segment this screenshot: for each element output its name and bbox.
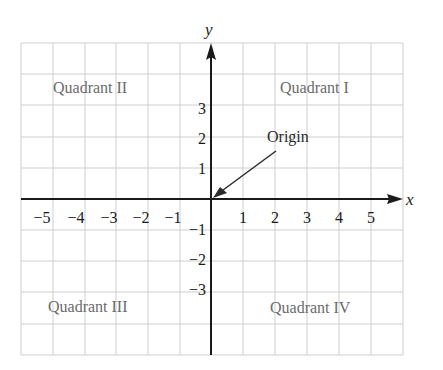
x-tick: −1 <box>164 209 181 226</box>
x-tick: −5 <box>33 209 50 226</box>
x-tick: 2 <box>271 209 279 226</box>
quadrant-iii-label: Quadrant III <box>48 298 128 315</box>
quadrant-i-label: Quadrant I <box>280 79 349 96</box>
y-tick: 2 <box>198 130 206 147</box>
coordinate-plane: x y −5 −4 −3 −2 −1 1 2 3 4 5 1 2 3 −1 −2… <box>0 0 443 370</box>
origin-label: Origin <box>267 128 309 146</box>
x-tick: 5 <box>367 209 375 226</box>
y-tick: −2 <box>189 251 206 268</box>
y-tick: −3 <box>189 281 206 298</box>
y-tick: 3 <box>198 100 206 117</box>
x-tick: 4 <box>335 209 343 226</box>
x-axis-arrow-icon <box>387 194 403 204</box>
y-tick: 1 <box>198 160 206 177</box>
x-axis-label: x <box>405 190 414 209</box>
quadrant-ii-label: Quadrant II <box>53 79 127 96</box>
quadrant-iv-label: Quadrant IV <box>270 299 351 316</box>
y-axis-label: y <box>203 20 213 39</box>
x-tick: −3 <box>100 209 117 226</box>
x-tick: −2 <box>132 209 149 226</box>
x-tick: 3 <box>303 209 311 226</box>
x-tick: −4 <box>67 209 84 226</box>
origin-pointer-arrow <box>213 151 276 198</box>
x-tick: 1 <box>239 209 247 226</box>
y-tick: −1 <box>189 221 206 238</box>
